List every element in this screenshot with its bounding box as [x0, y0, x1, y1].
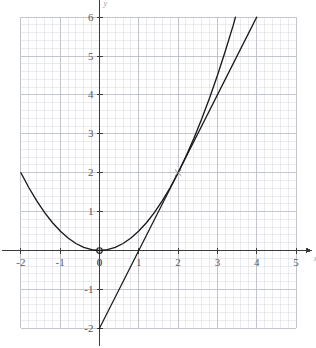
x-tick-4: 4	[248, 257, 266, 268]
y-axis-label: y	[104, 0, 108, 8]
y-tick-4: 4	[78, 89, 94, 100]
x-tick-neg2: -2	[12, 257, 30, 268]
x-axis-label: x	[314, 255, 316, 263]
y-tick-3: 3	[78, 128, 94, 139]
x-tick-3: 3	[208, 257, 226, 268]
y-tick-2: 2	[78, 167, 94, 178]
y-tick-neg2: -2	[78, 323, 94, 334]
x-tick-5: 5	[287, 257, 305, 268]
x-tick-2: 2	[169, 257, 187, 268]
graph-figure: -2-1012345 -2-11234560 x y	[0, 0, 316, 348]
x-tick-1: 1	[130, 257, 148, 268]
y-tick-neg1: -1	[78, 284, 94, 295]
y-tick-5: 5	[78, 51, 94, 62]
origin-tick-0: 0	[91, 257, 109, 268]
x-tick-neg1: -1	[51, 257, 69, 268]
cartesian-plot	[0, 0, 316, 348]
plot-background	[0, 0, 316, 348]
y-tick-1: 1	[78, 206, 94, 217]
y-tick-6: 6	[78, 12, 94, 23]
